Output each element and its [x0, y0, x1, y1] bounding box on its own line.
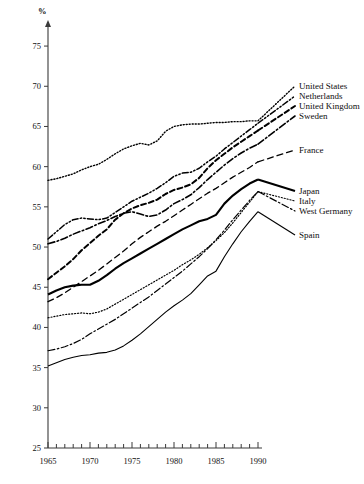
chart-container: 2530354045505560657075196519701975198019…	[0, 0, 364, 484]
x-axis-tick-label: 1970	[82, 456, 99, 466]
line-chart: 2530354045505560657075196519701975198019…	[0, 0, 364, 484]
chart-legend: United StatesNetherlandsUnited KingdomSw…	[258, 81, 360, 240]
y-axis-tick-label: 75	[33, 41, 42, 51]
series-line-spain: Spain	[48, 212, 258, 366]
legend-label-italy: Italy	[299, 196, 316, 206]
x-axis-tick-label: 1985	[208, 456, 225, 466]
y-axis-tick-label: 40	[33, 322, 42, 332]
legend-label-spain: Spain	[299, 230, 320, 240]
y-axis-tick-label: 65	[33, 121, 42, 131]
legend-label-japan: Japan	[299, 186, 320, 196]
x-axis-tick-label: 1965	[40, 456, 57, 466]
series-line-sweden: Sweden	[48, 144, 258, 244]
legend-leader-line	[258, 192, 295, 201]
legend-label-netherlands: Netherlands	[299, 91, 343, 101]
legend-label-france: France	[299, 145, 324, 155]
axes: 2530354045505560657075196519701975198019…	[33, 20, 267, 466]
y-axis-tick-label: 45	[33, 282, 42, 292]
y-axis-tick-label: 50	[33, 242, 42, 252]
series-line-italy: Italy	[48, 192, 258, 318]
y-axis-tick-label: 30	[33, 403, 42, 413]
series-lines: United StatesNetherlandsUnited KingdomSw…	[48, 121, 258, 366]
y-axis-tick-label: 25	[33, 443, 42, 453]
legend-leader-line	[258, 192, 295, 211]
legend-leader-line	[258, 212, 295, 235]
x-axis-tick-label: 1990	[250, 456, 267, 466]
x-axis-tick-label: 1975	[124, 456, 141, 466]
series-line-japan: Japan	[48, 180, 258, 295]
legend-label-united-states: United States	[299, 81, 348, 91]
x-axis-tick-label: 1980	[166, 456, 183, 466]
y-axis-tick-label: 60	[33, 162, 42, 172]
legend-leader-line	[258, 86, 295, 121]
y-axis-unit-label: %	[38, 6, 47, 16]
y-axis-tick-label: 35	[33, 363, 42, 373]
legend-label-united-kingdom: United Kingdom	[299, 101, 360, 111]
y-axis-tick-label: 55	[33, 202, 42, 212]
y-axis-arrow	[45, 20, 51, 27]
series-line-united-states: United States	[48, 121, 258, 180]
legend-label-west-germany: West Germany	[299, 206, 353, 216]
legend-leader-line	[258, 150, 295, 162]
series-line-united-kingdom: United Kingdom	[48, 130, 258, 279]
legend-leader-line	[258, 180, 295, 191]
y-axis-tick-label: 70	[33, 81, 42, 91]
legend-leader-line	[258, 116, 295, 144]
legend-label-sweden: Sweden	[299, 111, 328, 121]
